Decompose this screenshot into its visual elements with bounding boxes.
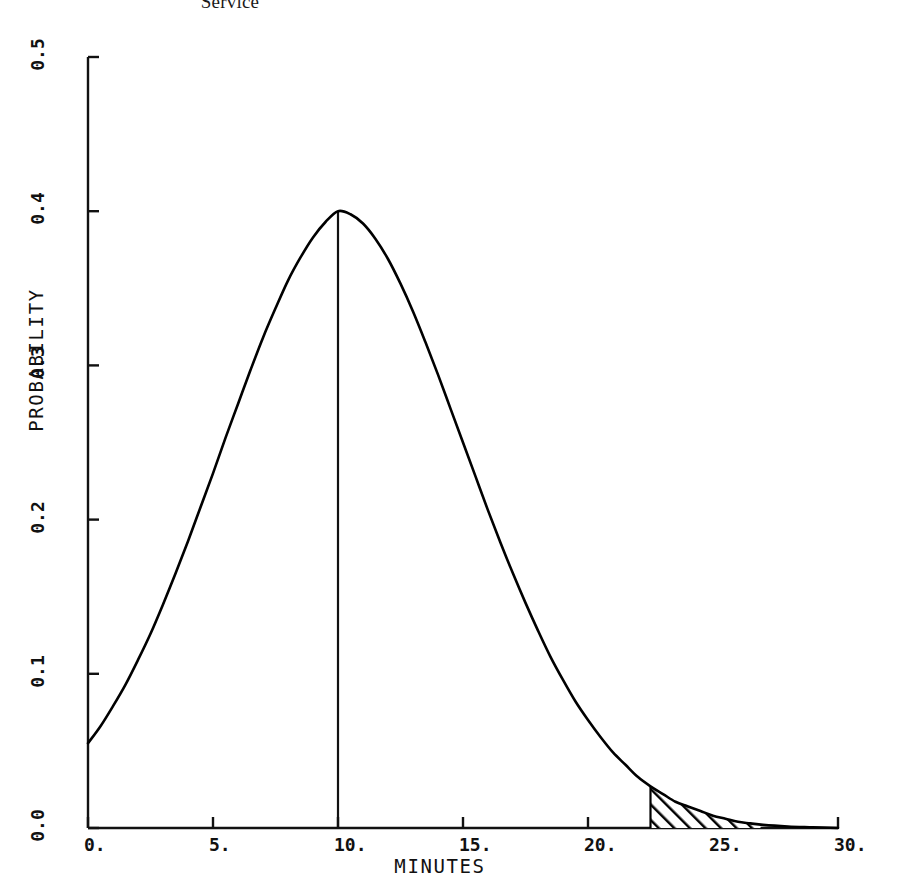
y-tick-label-0: 0.0 — [27, 799, 48, 853]
probability-curve — [88, 211, 838, 828]
x-tick-label-4: 20. — [584, 834, 630, 855]
x-tick-label-5: 25. — [709, 834, 755, 855]
y-tick-label-4: 0.4 — [27, 182, 48, 236]
data-group — [88, 211, 838, 828]
probability-plot — [0, 0, 901, 895]
x-tick-label-2: 10. — [334, 834, 380, 855]
y-tick-label-2: 0.2 — [27, 490, 48, 544]
y-tick-label-5: 0.5 — [27, 28, 48, 82]
x-tick-label-3: 15. — [459, 834, 505, 855]
x-tick-label-0: 0. — [84, 834, 130, 855]
y-tick-label-1: 0.1 — [27, 644, 48, 698]
x-tick-label-6: 30. — [834, 834, 880, 855]
x-axis-title: MINUTES — [340, 855, 540, 877]
y-axis-title: PROBABILITY — [25, 280, 47, 440]
chart-canvas: Service 0.00.10.20.30.40.5 0.5.10.15.20.… — [0, 0, 901, 895]
y-axis-ticks — [88, 57, 99, 828]
x-tick-label-1: 5. — [209, 834, 255, 855]
